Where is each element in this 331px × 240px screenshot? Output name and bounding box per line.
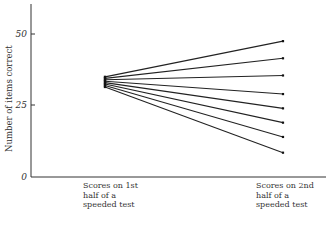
data-point-marker bbox=[282, 107, 284, 109]
data-point-marker bbox=[282, 74, 284, 76]
x-category-label-1: Scores on 1st half of a speeded test bbox=[83, 181, 138, 210]
data-point-marker bbox=[282, 136, 284, 138]
series-line-2 bbox=[105, 58, 283, 78]
data-point-marker bbox=[282, 122, 284, 124]
series-line-6 bbox=[105, 84, 283, 123]
series-line-1 bbox=[105, 41, 283, 77]
data-point-marker bbox=[282, 152, 284, 154]
data-point-marker bbox=[104, 86, 106, 88]
series-layer bbox=[104, 40, 284, 154]
x-category-label-2: Scores on 2nd half of a speeded test bbox=[256, 181, 314, 210]
y-tick-label-0: 0 bbox=[21, 172, 27, 182]
series-line-4 bbox=[105, 81, 283, 94]
data-point-marker bbox=[282, 93, 284, 95]
data-point-marker bbox=[282, 57, 284, 59]
y-axis-label: Number of items correct bbox=[4, 45, 14, 152]
series-line-5 bbox=[105, 83, 283, 109]
series-line-7 bbox=[105, 85, 283, 136]
series-line-3 bbox=[105, 75, 283, 79]
y-tick-label-25: 25 bbox=[15, 100, 28, 110]
data-point-marker bbox=[282, 40, 284, 42]
series-line-8 bbox=[105, 87, 283, 153]
y-tick-label-50: 50 bbox=[16, 29, 28, 39]
